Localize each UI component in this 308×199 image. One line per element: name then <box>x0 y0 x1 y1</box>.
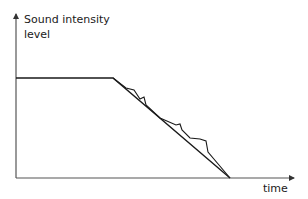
y-axis-label: Sound intensity level <box>24 12 110 42</box>
x-axis-label: time <box>263 181 288 196</box>
y-axis-label-line2: level <box>24 27 110 42</box>
y-axis-label-line1: Sound intensity <box>24 12 110 27</box>
ideal-decay-line <box>16 78 230 178</box>
